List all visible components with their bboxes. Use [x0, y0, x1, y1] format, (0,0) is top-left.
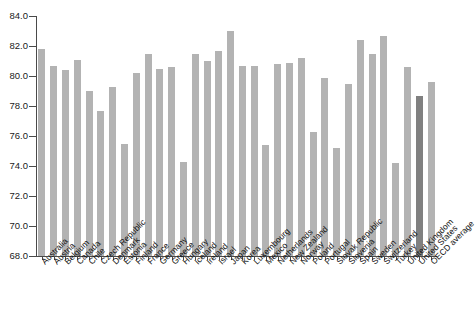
y-axis-tick [29, 166, 36, 167]
y-axis-tick-label-wrap: 76.0 [0, 131, 28, 141]
bar [74, 60, 81, 257]
y-axis-tick-label-wrap: 72.0 [0, 191, 28, 201]
bar [274, 64, 281, 256]
y-axis-tick [29, 196, 36, 197]
bar [50, 66, 57, 257]
bar [97, 111, 104, 257]
y-axis-tick-label: 70.0 [0, 221, 28, 231]
y-axis-tick [29, 46, 36, 47]
bar [168, 67, 175, 256]
bar [86, 91, 93, 256]
y-axis-tick [29, 76, 36, 77]
y-axis-tick-label-wrap: 84.0 [0, 11, 28, 21]
bar [192, 54, 199, 257]
y-axis-tick-label: 74.0 [0, 161, 28, 171]
y-axis-tick [29, 256, 36, 257]
y-axis-tick [29, 106, 36, 107]
bar [298, 58, 305, 256]
y-axis-tick-label-wrap: 82.0 [0, 41, 28, 51]
x-axis-labels: AustraliaAustriaBelgiumCanadaChileCzech … [0, 258, 442, 334]
y-axis-tick-label-wrap: 80.0 [0, 71, 28, 81]
y-axis-tick-label-wrap: 78.0 [0, 101, 28, 111]
bar [345, 84, 352, 257]
y-axis-tick-label: 80.0 [0, 71, 28, 81]
y-axis-tick-label: 72.0 [0, 191, 28, 201]
bar [109, 87, 116, 257]
y-axis-tick-label: 84.0 [0, 11, 28, 21]
bar [251, 66, 258, 257]
bar [215, 51, 222, 257]
bar [239, 66, 246, 257]
bar [204, 61, 211, 256]
bar [262, 145, 269, 256]
bar [62, 70, 69, 256]
bar [38, 49, 45, 256]
bar [404, 67, 411, 256]
y-axis-tick [29, 226, 36, 227]
bar [357, 40, 364, 256]
y-axis-tick-label: 78.0 [0, 101, 28, 111]
bar [227, 31, 234, 256]
bar [156, 69, 163, 257]
y-axis-tick-label-wrap: 74.0 [0, 161, 28, 171]
y-axis-tick-label: 82.0 [0, 41, 28, 51]
y-axis-tick-label-wrap: 70.0 [0, 221, 28, 231]
y-axis-tick-label: 76.0 [0, 131, 28, 141]
bar [333, 148, 340, 256]
y-axis-tick [29, 16, 36, 17]
bar [286, 63, 293, 257]
y-axis-tick [29, 136, 36, 137]
